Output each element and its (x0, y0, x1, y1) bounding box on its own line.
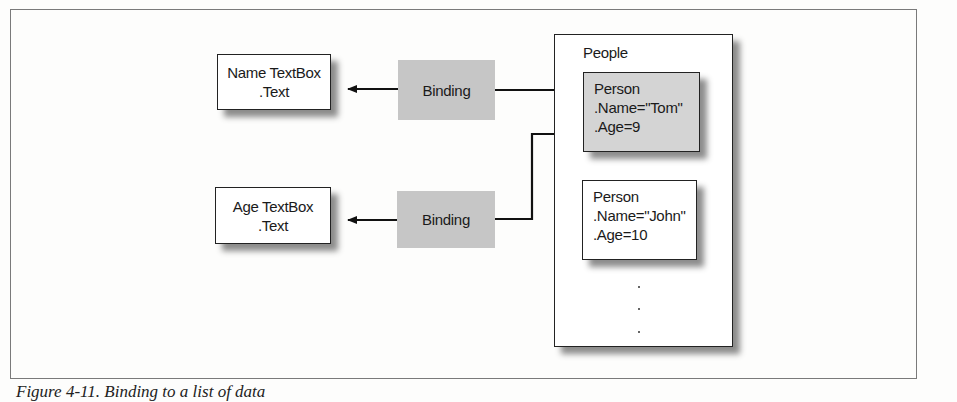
ellipsis-dot (638, 286, 640, 288)
binding-node-name: Binding (398, 60, 495, 120)
person-name: .Name="Tom" (594, 98, 689, 117)
name-textbox-property: .Text (218, 82, 330, 101)
age-textbox-node: Age TextBox .Text (215, 187, 331, 244)
person-node: Person .Name="John" .Age=10 (582, 180, 697, 260)
name-textbox-node: Name TextBox .Text (217, 54, 331, 110)
binding-node-age: Binding (397, 191, 495, 248)
person-age: .Age=9 (594, 117, 689, 136)
binding-label: Binding (423, 82, 471, 99)
figure-caption: Figure 4-11. Binding to a list of data (16, 382, 265, 402)
binding-label: Binding (422, 211, 470, 228)
person-type: Person (593, 187, 686, 206)
name-textbox-label: Name TextBox (218, 63, 330, 82)
person-name: .Name="John" (593, 206, 686, 225)
person-age: .Age=10 (593, 225, 686, 244)
ellipsis-dot (638, 308, 640, 310)
person-type: Person (594, 79, 689, 98)
people-title: People (583, 43, 628, 62)
person-node-current: Person .Name="Tom" .Age=9 (583, 72, 700, 152)
age-textbox-label: Age TextBox (216, 197, 330, 216)
age-textbox-property: .Text (216, 216, 330, 235)
ellipsis-dot (638, 331, 640, 333)
